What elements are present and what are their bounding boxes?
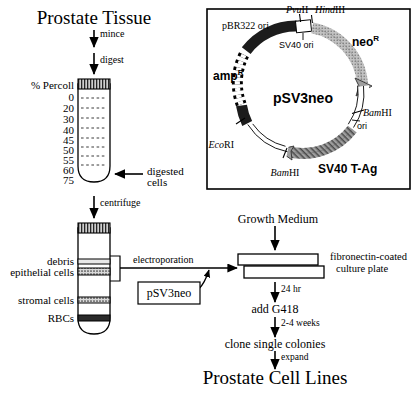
ecori-roman: RI [224,139,234,150]
step-mince-label: mince [100,29,124,39]
plasmid-label-sv40-ori: SV40 ori [279,41,314,50]
step-24hr-label: 24 hr [281,285,301,295]
band-stromal [78,297,110,303]
separation-tube [78,223,120,334]
layer-label-rbcs: RBCs [48,313,74,324]
step-expand-label: expand [281,353,308,363]
growth-medium-label: Growth Medium [238,213,318,225]
culture-plate [238,254,324,278]
neo-r-text: neo [352,35,373,49]
band-epithelial [78,268,110,275]
neo-r-superscript: R [373,34,379,43]
amp-r-text: amp [213,69,238,83]
plate-lid [238,254,318,265]
bamhi-right-roman: HI [381,107,392,118]
ecori-italic: Eco [208,139,224,150]
pvuii-roman: II [302,4,309,15]
plasmid-site-bamhi-right: BamHI [363,108,392,118]
page-title: Prostate Tissue [37,8,152,27]
plasmid-label-sv40-t-ag: SV40 T-Ag [318,163,377,175]
amp-r-superscript: R [238,68,244,77]
plasmid-site-pvuii: PvuII [286,5,308,15]
plasmid-site-hindiii: HindIII [315,5,345,15]
percoll-value-75: 75 [63,175,74,186]
plasmid-label-bamhi-ori: ori [357,122,367,131]
diagram-graphics [0,0,417,395]
step-electroporation-label: electroporation [133,255,194,265]
plasmid-site-bamhi-bottom: BamHI [271,168,300,178]
plate-label-line1: fibronectin-coated [330,252,407,263]
bamhi-bottom-italic: Bam [271,167,289,178]
bamhi-right-italic: Bam [363,107,381,118]
plasmid-label-neo-r: neoR [352,35,379,48]
step-clone-colonies-label: clone single colonies [225,338,326,350]
arc-ecori-block [242,106,248,124]
layer-label-epithelial-cells: epithelial cells [10,267,74,278]
result-title: Prostate Cell Lines [203,368,348,387]
band-debris [78,259,110,264]
step-centrifuge-label: centrifuge [100,198,141,208]
plasmid-site-ecori: EcoRI [208,140,234,150]
plate-label-line2: culture plate [336,264,388,275]
bamhi-bottom-roman: HI [289,167,300,178]
digested-cells-label-line2: cells [147,177,167,188]
layer-label-stromal-cells: stromal cells [18,295,74,306]
hindiii-roman: III [335,4,345,15]
percoll-axis-label: % Percoll [31,80,74,91]
step-weeks-label: 2-4 weeks [281,319,320,329]
step-add-g418-label: add G418 [252,303,299,315]
workflow-diagram: Prostate Tissue mince digest % Percoll 0… [0,0,417,395]
band-rbc [78,315,110,321]
percoll-tube [78,79,110,182]
plate-base [244,266,324,278]
hindiii-italic: Hind [315,4,335,15]
step-digest-label: digest [100,55,124,65]
psv3neo-box-label: pSV3neo [147,287,192,299]
plasmid-label-pbr322-ori: pBR322 ori [222,21,269,31]
plasmid-label-amp-r: ampR [213,69,243,82]
plasmid-name: pSV3neo [273,91,333,105]
pvuii-italic: Pvu [286,4,302,15]
